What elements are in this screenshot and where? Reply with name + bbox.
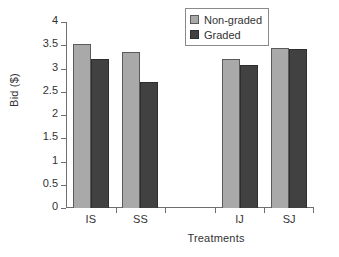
y-axis-tick-label: 2.5 xyxy=(18,84,58,96)
y-axis-tick: 0 xyxy=(61,208,66,209)
legend-swatch-graded-icon xyxy=(190,30,199,39)
bar-ij-graded xyxy=(240,65,258,208)
bar-slot xyxy=(116,22,166,208)
y-axis-tick-label: 1.5 xyxy=(18,130,58,142)
y-axis-tick-label: 3 xyxy=(18,61,58,73)
bar-ss-non-graded xyxy=(122,52,140,208)
bar-sj-graded xyxy=(289,49,307,208)
legend-label-non-graded: Non-graded xyxy=(204,14,262,26)
bar-ij-non-graded xyxy=(222,59,240,208)
bar-slot xyxy=(215,22,265,208)
legend-label-graded: Graded xyxy=(204,29,241,41)
bar-group: IJ xyxy=(215,22,265,208)
y-axis-tick-label: 2 xyxy=(18,107,58,119)
bar-group: IS xyxy=(66,22,116,208)
x-axis-title: Treatments xyxy=(160,232,272,244)
bar-group xyxy=(165,22,215,208)
chart-legend: Non-graded Graded xyxy=(185,8,269,46)
y-axis-tick-label: 0 xyxy=(18,200,58,212)
bar-slot xyxy=(264,22,314,208)
y-axis-tick-label: 4 xyxy=(18,14,58,26)
bar-slot xyxy=(66,22,116,208)
legend-item-graded: Graded xyxy=(190,27,262,42)
legend-swatch-non-graded-icon xyxy=(190,15,199,24)
legend-item-non-graded: Non-graded xyxy=(190,12,262,27)
bar-group: SS xyxy=(116,22,166,208)
bar-slot xyxy=(165,22,215,208)
bar-sj-non-graded xyxy=(271,48,289,208)
bar-is-non-graded xyxy=(73,44,91,208)
x-axis-category-label: SS xyxy=(116,213,166,225)
bar-ss-graded xyxy=(140,82,158,208)
bar-chart-figure: Bid ($) Treatments 43.532.521.510.50 ISS… xyxy=(0,0,339,257)
bar-group: SJ xyxy=(264,22,314,208)
bar-is-graded xyxy=(91,59,109,208)
y-axis-tick-label: 0.5 xyxy=(18,177,58,189)
y-axis-tick-label: 3.5 xyxy=(18,37,58,49)
x-axis-category-label: IJ xyxy=(215,213,265,225)
plot-area: 43.532.521.510.50 ISSSIJSJ xyxy=(66,22,314,208)
x-axis-category-label: SJ xyxy=(264,213,314,225)
x-axis-category-label: IS xyxy=(66,213,116,225)
y-axis-tick-label: 1 xyxy=(18,154,58,166)
